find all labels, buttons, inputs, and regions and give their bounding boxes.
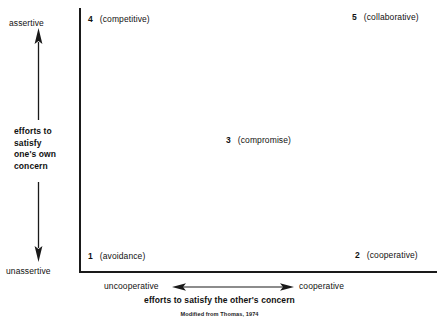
x-axis-title-text: efforts to satisfy the other's concern xyxy=(144,295,295,305)
point-number: 3 xyxy=(226,135,231,145)
x-axis-title: efforts to satisfy the other's concern xyxy=(0,295,437,305)
point-name: (avoidance) xyxy=(100,251,146,261)
y-axis-title-line-2: satisfy xyxy=(14,138,56,150)
point-name: (competitive) xyxy=(100,14,150,24)
point-label-collaborative: 5(collaborative) xyxy=(352,12,419,23)
point-name: (compromise) xyxy=(238,135,291,145)
point-label-cooperative: 2(cooperative) xyxy=(355,250,418,261)
x-axis-double-arrow-icon xyxy=(172,280,294,294)
point-label-avoidance: 1(avoidance) xyxy=(88,251,145,262)
point-label-compromise: 3(compromise) xyxy=(226,135,291,146)
point-number: 5 xyxy=(352,12,357,22)
y-axis-top-label: assertive xyxy=(9,18,44,28)
conflict-mode-grid-figure: assertive unassertive efforts to satisfy… xyxy=(0,0,437,324)
vertical-axis-line xyxy=(79,8,81,273)
point-number: 2 xyxy=(355,250,360,260)
horizontal-axis-line xyxy=(79,271,437,273)
x-axis-right-label: cooperative xyxy=(299,281,344,291)
point-label-competitive: 4(competitive) xyxy=(88,14,150,25)
point-name: (collaborative) xyxy=(364,12,419,22)
y-axis-up-arrow-icon xyxy=(31,28,46,120)
y-axis-title-line-4: concern xyxy=(14,161,56,173)
y-axis-title-line-3: one's own xyxy=(14,149,56,161)
source-credit: Modified from Thomas, 1974 xyxy=(0,311,437,317)
point-name: (cooperative) xyxy=(367,250,418,260)
y-axis-bottom-label: unassertive xyxy=(6,266,51,276)
source-credit-text: Modified from Thomas, 1974 xyxy=(180,311,258,317)
y-axis-down-arrow-icon xyxy=(31,182,46,262)
y-axis-title: efforts to satisfy one's own concern xyxy=(14,126,56,172)
point-number: 1 xyxy=(88,251,93,261)
x-axis-left-label: uncooperative xyxy=(104,281,159,291)
point-number: 4 xyxy=(88,14,93,24)
y-axis-title-line-1: efforts to xyxy=(14,126,56,138)
